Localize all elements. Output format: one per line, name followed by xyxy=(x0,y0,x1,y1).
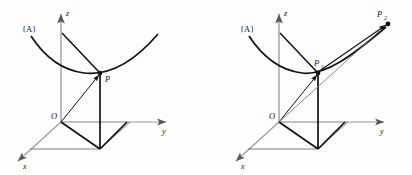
left-x-axis-label: x xyxy=(22,162,27,171)
right-point-p2-label-sub: 2 xyxy=(384,15,387,21)
right-x-axis-label: x xyxy=(240,162,245,171)
right-point-p1-label-text: P xyxy=(313,58,319,68)
right-point-p1-marker xyxy=(316,71,321,76)
right-y-axis-label: y xyxy=(379,127,384,136)
right-frame-label: {A} xyxy=(240,24,254,34)
left-frame-label: {A} xyxy=(22,24,36,34)
left-y-axis-label: y xyxy=(161,127,166,136)
right-point-p2-marker xyxy=(386,22,391,27)
right-point-p1-label-sub: 1 xyxy=(321,64,324,70)
left-point-p-marker xyxy=(98,71,103,76)
left-origin-label: O xyxy=(51,111,57,121)
diagram-canvas: z y x {A} xyxy=(0,0,412,175)
left-point-p-label: P xyxy=(104,74,110,84)
right-origin-label: O xyxy=(269,111,275,121)
right-point-p2-label-text: P xyxy=(376,9,382,19)
figure-root: z y x {A} xyxy=(0,0,412,175)
